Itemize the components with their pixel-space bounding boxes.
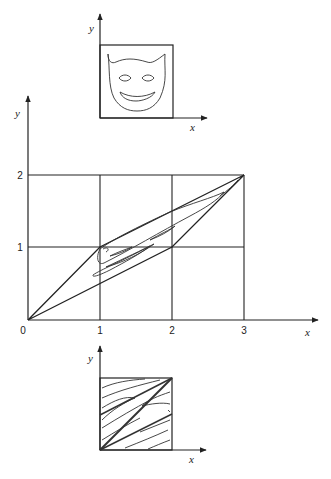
bottom-y-label: y [87,352,93,364]
top-x-label: x [189,121,195,133]
transformed-face-icon [93,180,238,276]
y-tick-1: 1 [17,242,23,253]
figure: y x y x 2 1 0 1 2 3 [0,0,331,479]
x-tick-2: 2 [169,325,175,336]
main-plot: y x 2 1 0 1 2 3 [14,96,318,338]
main-y-label: y [14,107,20,119]
x-tick-3: 3 [241,325,247,336]
devil-face-icon [108,54,165,111]
main-x-label: x [304,326,310,338]
top-y-label: y [88,22,94,34]
y-tick-2: 2 [17,170,23,181]
top-plot: y x [88,14,207,133]
x-tick-1: 1 [97,325,103,336]
x-tick-0: 0 [20,325,26,336]
bottom-x-label: x [188,453,194,465]
bottom-plot: y x [87,346,206,465]
folded-face-icon [100,378,172,450]
